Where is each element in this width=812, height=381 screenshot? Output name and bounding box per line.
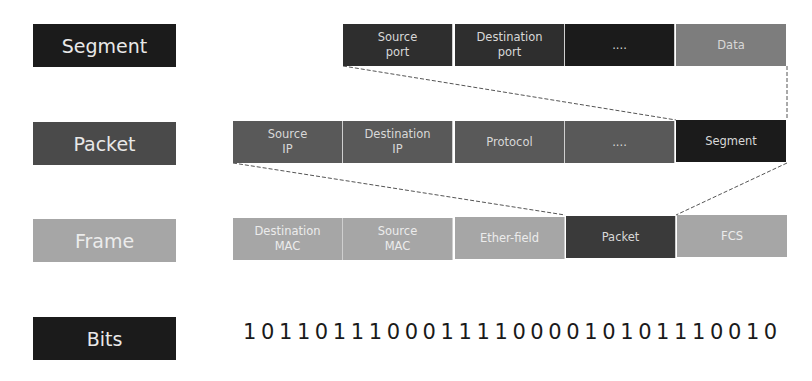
segment-field-ellipsis: .... xyxy=(565,24,675,66)
segment-field-source-port: Source port xyxy=(343,24,453,66)
row-label-segment: Segment xyxy=(33,24,176,67)
packet-field-destination-ip: Destination IP xyxy=(343,121,453,163)
row-label-packet: Packet xyxy=(33,122,176,165)
frame-field-source-mac: Source MAC xyxy=(343,218,453,260)
packet-field-source-ip: Source IP xyxy=(233,121,343,163)
segment-field-destination-port: Destination port xyxy=(455,24,565,66)
packet-field-segment: Segment xyxy=(676,120,786,162)
row-label-frame: Frame xyxy=(33,219,176,262)
frame-field-fcs: FCS xyxy=(677,215,787,257)
frame-field-ether-field: Ether-field xyxy=(455,217,565,259)
packet-field-protocol: Protocol xyxy=(455,121,565,163)
frame-field-destination-mac: Destination MAC xyxy=(233,218,343,260)
frame-field-packet: Packet xyxy=(566,216,676,258)
segment-field-data: Data xyxy=(676,24,786,66)
bits-stream: 101101110001111000010101110010 xyxy=(243,320,782,344)
row-label-bits: Bits xyxy=(33,317,176,360)
packet-field-ellipsis: .... xyxy=(565,121,675,163)
